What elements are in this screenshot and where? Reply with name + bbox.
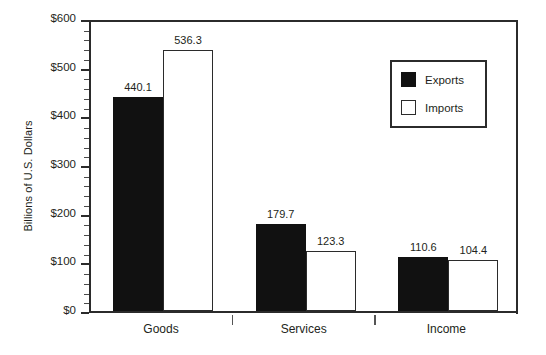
bar-value-label: 536.3 [174,34,202,46]
tick-mark [84,196,89,197]
x-axis-group-separator-tick [232,315,234,325]
tick-mark [84,274,89,275]
y-axis-tick-label: $100 [50,255,76,267]
legend-entry-exports: Exports [401,72,464,87]
tick-mark [84,79,89,80]
y-axis-tick-label: $500 [50,61,76,73]
tick-mark [84,89,89,90]
bar-value-label: 104.4 [460,244,488,256]
chart-legend: Exports Imports [390,60,487,128]
tick-mark [84,225,89,226]
tick-mark [84,284,89,285]
tick-mark [81,117,89,119]
tick-mark [84,109,89,110]
tick-mark [84,294,89,295]
bar-value-label: 440.1 [124,81,152,93]
tick-mark [84,40,89,41]
y-axis-tick-label: $0 [63,304,76,316]
y-axis-title: Billions of U.S. Dollars [22,76,34,276]
tick-mark [84,177,89,178]
tick-mark [84,138,89,139]
tick-mark [81,166,89,168]
tick-mark [81,215,89,217]
legend-entry-imports: Imports [401,100,463,115]
bar-income-imports: 104.4 [448,260,498,311]
x-axis-category-label-goods: Goods [143,322,178,336]
bar-services-exports: 179.7 [256,224,306,311]
tick-mark [84,255,89,256]
x-axis-category-label-income: Income [427,322,466,336]
tick-mark [84,186,89,187]
tick-mark [81,312,89,314]
tick-mark [81,69,89,71]
tick-mark [81,20,89,22]
x-axis-category-label-services: Services [281,322,327,336]
tick-mark [84,148,89,149]
bar-income-exports: 110.6 [398,257,448,311]
bar-value-label: 179.7 [267,208,295,220]
legend-swatch-exports [401,72,416,87]
y-axis-tick-label: $200 [50,207,76,219]
tick-mark [84,99,89,100]
tick-mark [81,263,89,265]
tick-mark [84,128,89,129]
y-axis-tick-label: $600 [50,12,76,24]
legend-label-exports: Exports [425,74,464,86]
tick-mark [84,50,89,51]
bar-chart: Billions of U.S. Dollars 440.1536.3179.7… [0,0,546,355]
tick-mark [84,235,89,236]
bar-services-imports: 123.3 [306,251,356,311]
tick-mark [84,31,89,32]
tick-mark [84,303,89,304]
tick-mark [84,157,89,158]
tick-mark [84,206,89,207]
bar-goods-imports: 536.3 [163,50,213,311]
tick-mark [84,60,89,61]
x-axis-group-separator-tick [374,315,376,325]
bar-value-label: 110.6 [410,241,437,253]
tick-mark [84,245,89,246]
legend-label-imports: Imports [425,102,463,114]
legend-swatch-imports [401,100,416,115]
y-axis-tick-label: $400 [50,109,76,121]
bar-value-label: 123.3 [317,235,345,247]
y-axis-tick-label: $300 [50,158,76,170]
bar-goods-exports: 440.1 [113,97,163,311]
